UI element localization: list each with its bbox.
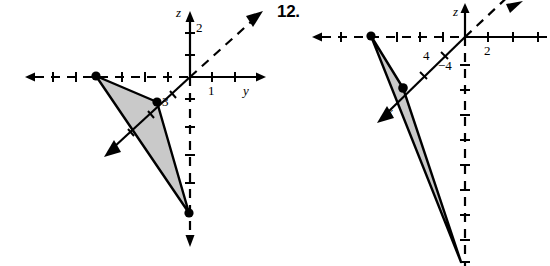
x-axis-label-12: x [387,104,393,120]
x-axis-negative-arrow-11 [246,11,263,27]
y-axis-negative-arrow-12 [312,33,322,42]
y-tick-label-2-12: 2 [484,43,491,59]
z-tick-label-neg4-12: −4 [438,58,452,74]
vertex-label-3-11: 3 [162,94,169,110]
figure-12: 12. [275,0,550,266]
page-root: . [0,0,550,266]
y-axis-negative-arrow-11 [25,73,35,82]
z-axis-label-11: z [176,5,181,21]
figure-12-graphic [275,0,550,266]
vertex-dot-x-12 [398,83,408,93]
y-axis-arrow-11 [256,73,266,82]
x-axis-label-11: x [111,139,117,155]
vertex-dot-y-11 [91,71,100,80]
vertex-dot-y-12 [366,31,375,40]
x-axis-negative-arrow-12 [506,1,523,13]
z-axis-arrow-12 [461,3,470,13]
z-axis-label-12: z [453,4,458,20]
z-axis-arrow-11 [186,11,195,22]
vertex-dot-x-11 [152,97,161,106]
y-axis-label-11: y [243,83,249,99]
z-tick-label-2-11: 2 [196,20,203,36]
figure-11: . [0,0,275,266]
y-tick-label-1-11: 1 [208,83,215,99]
x-tick-label-4-12: 4 [423,48,430,64]
vertex-dot-z-11 [184,208,193,217]
z-axis-negative-arrow-11 [186,235,195,247]
figure-11-graphic [0,0,275,266]
